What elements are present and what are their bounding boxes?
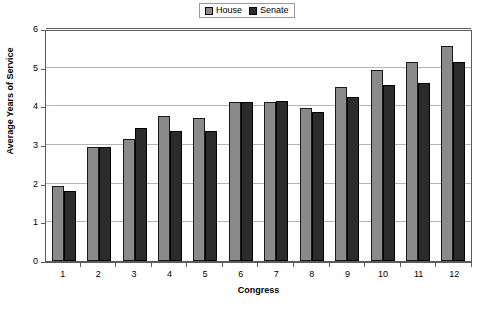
x-axis-ticks [45,263,472,267]
bar-house [123,139,135,261]
bar-senate [135,128,147,261]
bar-senate [312,112,324,261]
bar-house [87,147,99,261]
y-tick-label: 3 [0,141,38,150]
x-tick-label: 5 [187,269,223,279]
bar-group [152,31,187,261]
x-tick-label: 11 [401,269,437,279]
bar-house [229,102,241,261]
bar-senate [170,131,182,261]
x-tick-label: 1 [45,269,81,279]
x-tick-label: 7 [258,269,294,279]
bar-house [264,102,276,261]
bar-house [371,70,383,261]
legend-entry-house: House [205,6,242,15]
x-tick-cell [330,263,366,267]
x-tick-cell [436,263,472,267]
x-axis-title: Congress [45,285,472,295]
x-tick-cell [294,263,330,267]
bar-house [52,186,64,261]
x-tick-cell [401,263,437,267]
bar-group [259,31,294,261]
bars-layer [46,31,471,261]
gridline [46,28,471,29]
x-tick-cell [258,263,294,267]
x-tick-cell [81,263,117,267]
bar-group [223,31,258,261]
x-tick-cell [152,263,188,267]
bar-group [81,31,116,261]
bar-group [117,31,152,261]
x-tick-label: 4 [152,269,188,279]
bar-group [294,31,329,261]
bar-group [400,31,435,261]
bar-senate [383,85,395,261]
x-tick-cell [116,263,152,267]
bar-group [46,31,81,261]
bar-group [436,31,471,261]
bar-house [406,62,418,261]
legend-label-house: House [216,6,242,15]
x-tick-cell [45,263,81,267]
bar-senate [276,101,288,261]
x-tick-label: 8 [294,269,330,279]
y-axis-line [45,30,46,263]
bar-senate [418,83,430,261]
x-tick-label: 6 [223,269,259,279]
legend-swatch-senate [249,7,257,15]
plot-area [45,30,472,262]
x-tick-label: 3 [116,269,152,279]
x-tick-label: 9 [330,269,366,279]
y-tick-label: 2 [0,180,38,189]
bar-senate [99,147,111,261]
x-tick-mark [471,263,472,267]
bar-house [300,108,312,261]
x-axis-tick-labels: 123456789101112 [45,269,472,279]
bar-senate [64,191,76,261]
bar-senate [205,131,217,261]
bar-house [193,118,205,261]
y-tick-label: 4 [0,102,38,111]
y-tick-label: 6 [0,25,38,34]
chart-legend: House Senate [199,3,295,18]
x-tick-cell [365,263,401,267]
legend-entry-senate: Senate [249,6,289,15]
y-tick-label: 5 [0,64,38,73]
x-tick-label: 12 [436,269,472,279]
y-tick-label: 0 [0,257,38,266]
x-tick-cell [187,263,223,267]
bar-chart-figure: House Senate Average Years of Service 01… [0,0,491,311]
bar-house [158,116,170,261]
x-tick-cell [223,263,259,267]
bar-senate [241,102,253,261]
y-tick-label: 1 [0,218,38,227]
bar-house [441,46,453,261]
bar-group [365,31,400,261]
legend-swatch-house [205,7,213,15]
bar-group [329,31,364,261]
bar-senate [453,62,465,261]
bar-group [188,31,223,261]
bar-house [335,87,347,261]
y-axis-title: Average Years of Service [5,21,15,181]
x-tick-label: 10 [365,269,401,279]
legend-label-senate: Senate [260,6,289,15]
x-tick-label: 2 [81,269,117,279]
bar-senate [347,97,359,261]
